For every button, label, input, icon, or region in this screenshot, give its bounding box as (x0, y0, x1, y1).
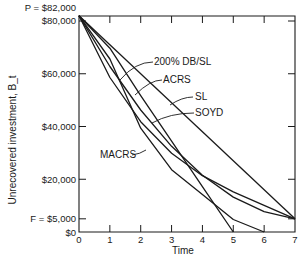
x-tick-label: 7 (292, 234, 297, 245)
y-tick-label: $0 (65, 227, 76, 238)
x-tick-label: 1 (107, 234, 112, 245)
x-tick-label: 5 (231, 234, 236, 245)
x-tick-label: 3 (169, 234, 174, 245)
series-label: SOYD (195, 107, 223, 118)
plot-border (79, 16, 295, 232)
series-labels: 200% DB/SLACRSSLSOYDMACRS (100, 56, 223, 160)
series-label: SL (195, 91, 208, 102)
series-label: 200% DB/SL (154, 56, 212, 67)
y-tick-label: F = $5,000 (30, 213, 76, 224)
series-lines (79, 16, 295, 232)
x-axis-title: Time (172, 245, 194, 256)
y-axis-title: Unrecovered investment, B_t (7, 75, 18, 204)
depreciation-chart: P = $82,000$80,000$60,000$40,000$20,000F… (0, 0, 307, 260)
x-tick-label: 6 (261, 234, 266, 245)
y-tick-label: $60,000 (42, 68, 76, 79)
x-tick-label: 4 (200, 234, 205, 245)
series-label: MACRS (100, 149, 136, 160)
series-sl (79, 16, 295, 219)
x-tick-label: 2 (138, 234, 143, 245)
x-axis-ticks: 01234567 (76, 16, 297, 245)
y-tick-label: $20,000 (42, 174, 76, 185)
plot-frame (79, 16, 295, 232)
y-tick-label: $80,000 (42, 15, 76, 26)
series-label: ACRS (163, 74, 191, 85)
y-tick-label: P = $82,000 (25, 2, 76, 13)
x-tick-label: 0 (76, 234, 81, 245)
y-axis-ticks: P = $82,000$80,000$60,000$40,000$20,000F… (25, 2, 295, 238)
y-tick-label: $40,000 (42, 121, 76, 132)
series-macrs (79, 16, 264, 232)
